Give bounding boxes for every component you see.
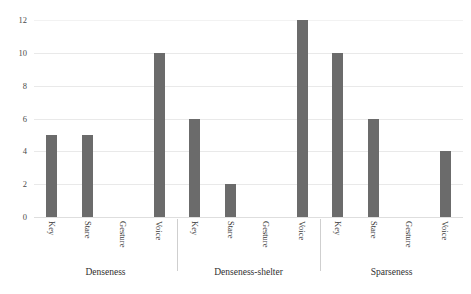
bar-slot-denseness-key [34,20,70,217]
y-tick-label: 2 [23,180,27,189]
bar-denseness-shelter-voice[interactable] [297,20,308,217]
category-label-key: Key [48,221,57,235]
category-label-key: Key [191,221,200,235]
category-label-gesture: Gesture [405,221,414,247]
bar-sparseness-stare[interactable] [368,119,379,218]
bar-slot-sparseness-stare [356,20,392,217]
group-title-sparseness: Sparseness [320,268,463,288]
category-label-stare: Stare [226,221,235,238]
cat-slot: Stare [356,219,392,264]
bar-slot-denseness-voice [141,20,177,217]
category-label-stare: Stare [369,221,378,238]
bar-denseness-voice[interactable] [154,53,165,217]
gridline-0-baseline [34,217,463,218]
bar-slot-denseness-shelter-key [177,20,213,217]
bar-group-sparseness [320,20,463,217]
y-tick-label: 4 [23,147,27,156]
category-label-voice: Voice [155,221,164,240]
cat-slot: Stare [70,219,106,264]
bar-chart: 0 2 4 6 8 10 12 [0,0,471,294]
category-label-voice: Voice [441,221,450,240]
bar-denseness-shelter-stare[interactable] [225,184,236,217]
y-tick-label: 8 [23,81,27,90]
category-group-sparseness: Key Stare Gesture Voice [320,219,463,264]
bar-slot-denseness-shelter-stare [213,20,249,217]
cat-slot: Voice [284,219,320,264]
cat-slot: Key [320,219,356,264]
group-title-denseness: Denseness [34,268,177,288]
category-label-stare: Stare [83,221,92,238]
category-group-denseness: Key Stare Gesture Voice [34,219,177,264]
bar-sparseness-key[interactable] [332,53,343,217]
category-label-voice: Voice [298,221,307,240]
bars-layer [34,20,463,217]
category-label-gesture: Gesture [119,221,128,247]
bar-slot-denseness-stare [70,20,106,217]
category-label-gesture: Gesture [262,221,271,247]
y-tick-label: 10 [19,49,28,58]
bar-slot-denseness-shelter-gesture [249,20,285,217]
bar-slot-sparseness-key [320,20,356,217]
group-titles: Denseness Denseness-shelter Sparseness [34,268,463,288]
cat-slot: Key [34,219,70,264]
cat-slot: Gesture [106,219,142,264]
category-labels: Key Stare Gesture Voice Key Stare Gestur… [34,219,463,264]
cat-slot: Gesture [249,219,285,264]
cat-slot: Gesture [392,219,428,264]
bar-slot-denseness-gesture [106,20,142,217]
y-tick-label: 6 [23,114,27,123]
y-tick-label: 0 [23,213,27,222]
bar-denseness-shelter-key[interactable] [189,119,200,218]
bar-group-denseness [34,20,177,217]
bar-denseness-key[interactable] [46,135,57,217]
bar-group-denseness-shelter [177,20,320,217]
bar-slot-sparseness-voice [427,20,463,217]
y-tick-label: 12 [19,16,28,25]
group-title-denseness-shelter: Denseness-shelter [177,268,320,288]
category-label-key: Key [334,221,343,235]
category-group-denseness-shelter: Key Stare Gesture Voice [177,219,320,264]
bar-slot-denseness-shelter-voice [284,20,320,217]
bar-denseness-stare[interactable] [82,135,93,217]
y-axis: 0 2 4 6 8 10 12 [0,20,34,217]
bar-sparseness-voice[interactable] [440,151,451,217]
bar-slot-sparseness-gesture [392,20,428,217]
cat-slot: Voice [427,219,463,264]
plot-area [34,20,463,217]
cat-slot: Stare [213,219,249,264]
cat-slot: Voice [141,219,177,264]
cat-slot: Key [177,219,213,264]
